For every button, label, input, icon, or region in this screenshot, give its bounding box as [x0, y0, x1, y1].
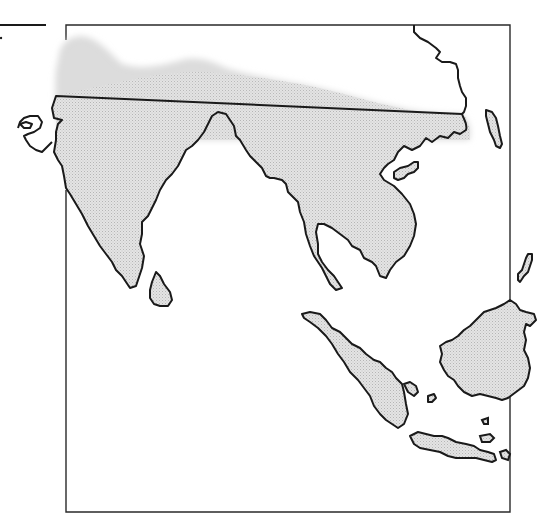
- small-island-east-java-3: [482, 418, 488, 424]
- sri-lanka: [150, 272, 172, 306]
- mainland-landmass: [52, 96, 467, 290]
- borneo-island: [440, 300, 536, 400]
- bangka-island: [404, 382, 418, 396]
- belitung-island: [428, 394, 436, 402]
- small-island-east-java-2: [500, 450, 510, 460]
- hainan-island: [394, 162, 418, 180]
- arabian-coast: [18, 116, 52, 152]
- philippines-island: [518, 254, 532, 282]
- corner-dot: [0, 37, 2, 39]
- outline-map: [0, 0, 549, 521]
- small-island-east-java-1: [480, 434, 494, 442]
- taiwan-island: [486, 110, 502, 148]
- sumatra-island: [302, 312, 408, 428]
- gulf-outline: [20, 122, 32, 128]
- china-coastline: [414, 25, 466, 114]
